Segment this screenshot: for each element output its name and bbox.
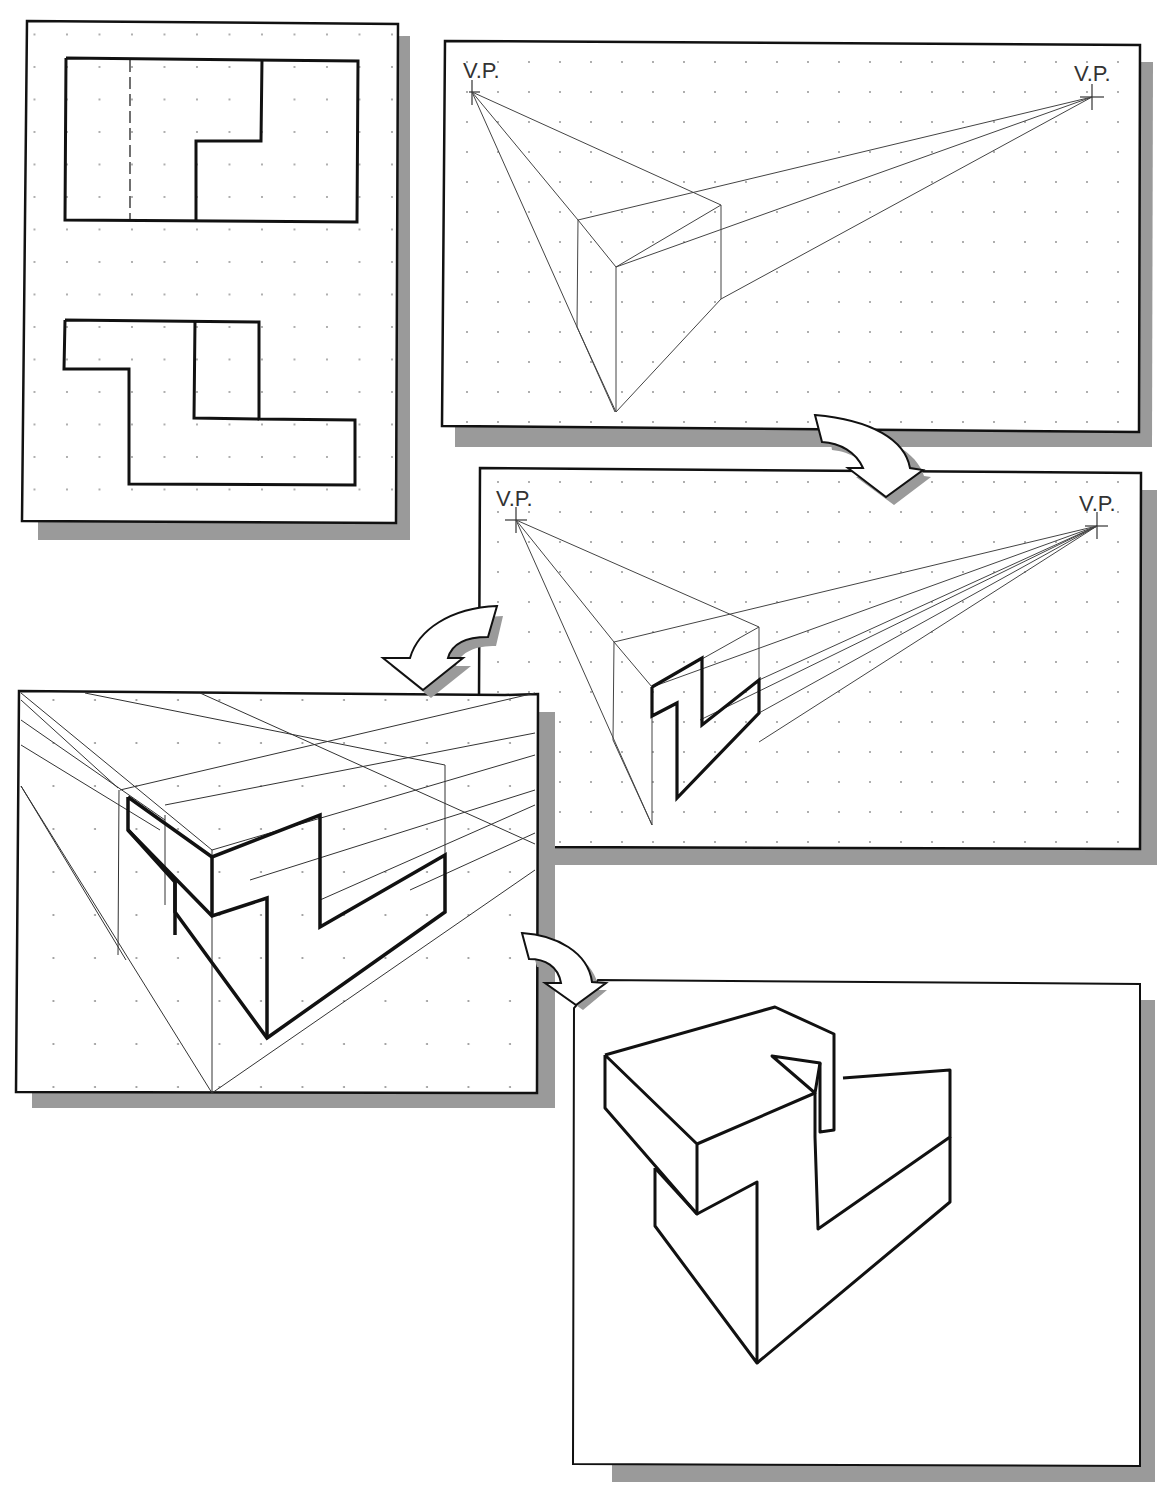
vp-left-label: V.P. (496, 486, 533, 511)
grid-dots (447, 44, 1137, 429)
panel-step-2-front-face: V.P. V.P. (479, 468, 1157, 865)
perspective-construction-figure: V.P. V.P. V.P. (0, 0, 1167, 1504)
grid-dots (482, 471, 1138, 846)
vp-left-label: V.P. (463, 58, 500, 83)
panel-paper (573, 980, 1140, 1466)
grid-dots (27, 24, 395, 520)
vp-right-label: V.P. (1074, 61, 1111, 86)
panel-orthographic-views (22, 21, 410, 540)
panel-step-3-depth (16, 691, 555, 1108)
panel-step-1-box: V.P. V.P. (442, 41, 1153, 447)
panel-step-4-final (573, 980, 1155, 1482)
